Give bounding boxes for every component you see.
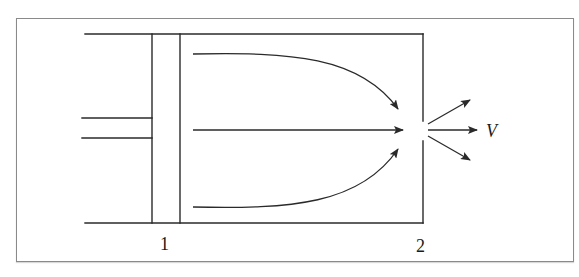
velocity-label: V (486, 122, 497, 140)
section-1-label: 1 (160, 235, 169, 253)
section-2-label: 2 (416, 237, 425, 255)
streamline-upper-arrow (193, 54, 398, 109)
streamline-lower-arrow (193, 149, 398, 207)
exit-jet-lower-arrow (428, 136, 470, 160)
exit-jet-upper-arrow (428, 100, 470, 124)
